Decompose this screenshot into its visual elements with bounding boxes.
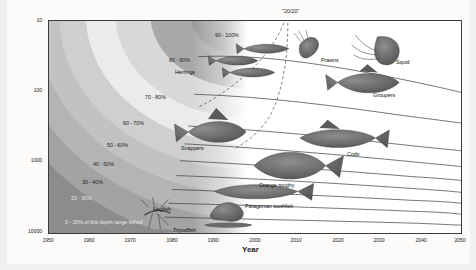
cod-icon (300, 120, 390, 148)
x-tick-1970: 1970 (115, 237, 145, 243)
species-illustrations (49, 21, 461, 233)
band-label-0-20: 0 - 20% of this depth range fished (65, 219, 143, 225)
tripodfish-icon (137, 197, 177, 232)
band-label-30-40: 30 - 40% (82, 179, 103, 185)
species-label-prawns: Prawns (321, 57, 339, 63)
band-label-80-90: 80 - 90% (169, 57, 190, 63)
species-label-hagfish: Hagfish (153, 206, 171, 212)
x-tick-2010: 2010 (281, 237, 311, 243)
callout-2020-label: "20/20" (282, 8, 299, 14)
species-label-snappers: Snappers (181, 145, 204, 151)
band-label-40-50: 40 - 50% (93, 161, 114, 167)
x-tick-1960: 1960 (74, 237, 104, 243)
x-tick-1990: 1990 (198, 237, 228, 243)
page-edge-left (0, 0, 7, 270)
band-label-50-60: 50 - 60% (107, 142, 128, 148)
orange-roughy-icon (254, 152, 344, 179)
y-tick-10: 10 (12, 17, 42, 23)
species-label-groupers: Groupers (373, 92, 395, 98)
band-label-20-30: 20 - 30% (71, 195, 92, 201)
page-edge-bottom (0, 264, 476, 270)
page-edge-right (470, 0, 476, 270)
x-tick-2000: 2000 (240, 237, 270, 243)
species-label-squid: Squid (396, 59, 410, 65)
x-tick-1950: 1950 (33, 237, 63, 243)
y-tick-1000: 1000 (12, 157, 42, 163)
snapper-icon (174, 108, 246, 142)
species-label-cods: Cods (347, 151, 359, 157)
y-tick-100: 100 (12, 87, 42, 93)
species-label-tripodfish: Tripodfish (173, 227, 196, 233)
plot-area: 90 - 100% 80 - 90% 70 - 80% 60 - 70% 50 … (48, 20, 462, 234)
x-axis-title: Year (242, 245, 259, 254)
x-tick-2020: 2020 (323, 237, 353, 243)
x-tick-2030: 2030 (364, 237, 394, 243)
x-tick-1980: 1980 (157, 237, 187, 243)
species-label-patagonian-toothfish: Patagonian toothfish (245, 203, 293, 209)
y-tick-10000: 10000 (9, 228, 42, 234)
x-tick-2040: 2040 (406, 237, 436, 243)
x-tick-2050: 2050 (445, 237, 475, 243)
figure-container: 10 100 1000 10000 Depth (meters) 1950 19… (0, 0, 476, 270)
squid-icon (352, 35, 400, 65)
band-label-90-100: 90 - 100% (215, 32, 239, 38)
band-label-70-80: 70 - 80% (145, 94, 166, 100)
species-label-herrings: Herrings (175, 69, 195, 75)
herring-icon (208, 44, 289, 78)
band-label-60-70: 60 - 70% (123, 120, 144, 126)
species-label-orange-roughy: Orange roughy (259, 182, 294, 188)
grouper-icon (326, 65, 400, 93)
prawn-icon (294, 30, 319, 58)
